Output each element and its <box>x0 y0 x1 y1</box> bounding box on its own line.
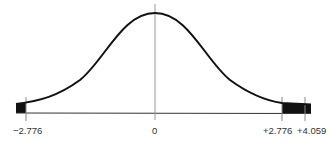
t-distribution-chart: −2.776 0 +2.776 +4.059 <box>0 0 331 142</box>
label-test-stat: +4.059 <box>297 125 326 136</box>
x-axis <box>16 113 311 114</box>
label-left-critical: −2.776 <box>13 125 42 136</box>
density-curve <box>16 13 311 105</box>
label-center: 0 <box>152 125 157 136</box>
label-right-critical: +2.776 <box>263 125 292 136</box>
